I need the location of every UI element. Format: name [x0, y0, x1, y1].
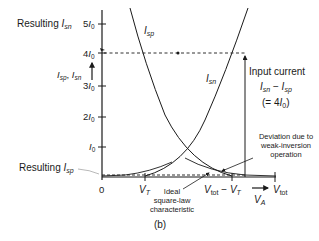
isp-curve-label: Isp: [144, 25, 154, 38]
svg-text:Ideal: Ideal: [164, 187, 181, 196]
isn-weak-inversion-curve: [102, 162, 172, 176]
svg-text:operation: operation: [270, 150, 301, 159]
x-axis-label: VA: [252, 188, 268, 206]
svg-text:Vtot: Vtot: [273, 184, 288, 196]
resulting-isp-label: Resulting Isp: [19, 162, 74, 175]
resulting-isn-label: Resulting Isn: [17, 18, 72, 30]
isn-curve-label: Isn: [206, 73, 216, 85]
svg-text:3I0: 3I0: [83, 80, 95, 92]
dashed-line-arrow-icon: [177, 52, 180, 55]
svg-text:4I0: 4I0: [83, 48, 95, 60]
svg-text:weak-inversion: weak-inversion: [260, 141, 311, 150]
svg-text:Isp, Isn: Isp, Isn: [57, 69, 82, 82]
svg-text:Isn − Isp: Isn − Isp: [260, 81, 292, 94]
svg-text:5I0: 5I0: [83, 18, 95, 30]
isn-curve: [145, 8, 248, 176]
svg-text:0: 0: [99, 184, 104, 195]
svg-text:VA: VA: [254, 194, 266, 206]
svg-text:(= 4I0): (= 4I0): [262, 97, 290, 109]
ideal-label: Ideal square-law characteristic: [150, 187, 194, 214]
square-law-diagram: 5I0 4I0 3I0 2I0 I0 0 Isp, Isn VT Vtot − …: [0, 0, 319, 241]
resulting-isp-pointer: [78, 169, 99, 174]
svg-text:Deviation due to: Deviation due to: [259, 132, 313, 141]
svg-text:Input current: Input current: [249, 66, 305, 77]
svg-text:I0: I0: [89, 141, 96, 153]
svg-text:characteristic: characteristic: [150, 205, 194, 214]
svg-text:Vtot − VT: Vtot − VT: [204, 184, 242, 196]
deviation-label: Deviation due to weak-inversion operatio…: [259, 132, 313, 159]
svg-text:2I0: 2I0: [83, 111, 95, 123]
svg-text:VT: VT: [139, 184, 151, 196]
x-tick-labels: VT Vtot − VT Vtot: [139, 184, 288, 196]
svg-text:square-law: square-law: [154, 196, 191, 205]
isp-weak-inversion-curve: [185, 158, 276, 176]
input-current-label: Input current Isn − Isp (= 4I0): [249, 66, 305, 109]
deviation-pointer: [222, 158, 253, 171]
figure-caption: (b): [154, 219, 166, 230]
y-tick-labels: 5I0 4I0 3I0 2I0 I0 0: [83, 18, 104, 195]
